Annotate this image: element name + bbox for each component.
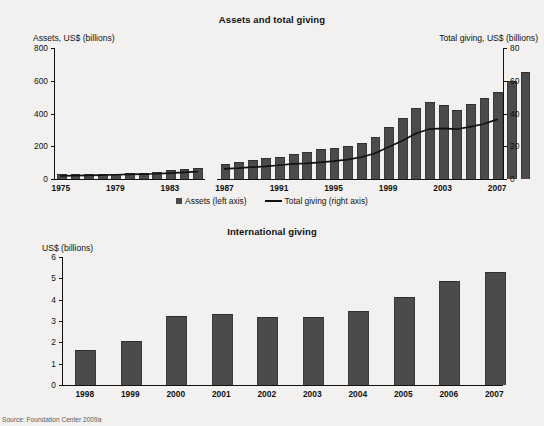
chart2-bar	[212, 314, 233, 385]
chart1-right-tick-label: 20	[510, 141, 536, 151]
chart1-right-tick-label: 40	[510, 109, 536, 119]
chart2-x-tick-label: 2005	[383, 389, 423, 399]
chart2-x-axis	[62, 385, 503, 386]
chart2-bar	[303, 317, 324, 385]
chart2-x-tick-label: 2003	[292, 389, 332, 399]
chart2-x-tick-label: 2000	[156, 389, 196, 399]
chart2-y-tick-label: 5	[36, 273, 56, 283]
chart1-x-tick-label: 1987	[204, 183, 244, 193]
chart1-x-tick-label: 1999	[368, 183, 408, 193]
chart1-x-tick-label: 1983	[150, 183, 190, 193]
chart2-bar	[75, 350, 96, 385]
chart1-right-tick-label: 60	[510, 76, 536, 86]
chart2-y-tick-label: 3	[36, 316, 56, 326]
chart2-tickmark	[59, 278, 62, 279]
chart2-x-tick-label: 2006	[429, 389, 469, 399]
chart2-plot-area: 0123456199819992000200120022003200420052…	[62, 257, 517, 385]
chart2-tickmark	[59, 321, 62, 322]
chart1-x-tick-label: 1995	[314, 183, 354, 193]
chart2-x-tick-label: 2007	[474, 389, 514, 399]
legend-entry-total-giving: Total giving (right axis)	[265, 196, 368, 206]
chart1-left-tickmark	[51, 81, 54, 82]
chart1-left-axis-label: Assets, US$ (billions)	[33, 33, 115, 43]
chart2-x-tick-label: 2004	[338, 389, 378, 399]
chart2-tickmark	[59, 342, 62, 343]
chart1-right-tickmark	[504, 48, 507, 49]
chart2-y-tick-label: 4	[36, 295, 56, 305]
chart1-x-tick-label: 2007	[477, 183, 517, 193]
chart2-tickmark	[59, 257, 62, 258]
chart1-plot-area: 0200400600800020406080197519791983198719…	[54, 48, 504, 179]
chart1-right-axis-label: Total giving, US$ (billions)	[439, 33, 538, 43]
chart1-left-tick-label: 600	[20, 76, 48, 86]
line-marker-icon	[265, 200, 282, 202]
legend-entry-assets: Assets (left axis)	[176, 196, 246, 206]
chart1-x-tick-label: 1991	[259, 183, 299, 193]
chart1-left-tickmark	[51, 114, 54, 115]
chart2-bar	[121, 341, 142, 385]
chart1-left-tick-label: 200	[20, 141, 48, 151]
chart1-bar	[521, 72, 531, 179]
chart2-tickmark	[59, 364, 62, 365]
chart2-x-tick-label: 2001	[201, 389, 241, 399]
chart1-legend: Assets (left axis) Total giving (right a…	[0, 196, 544, 206]
chart1-line-series	[54, 48, 504, 179]
chart2-bar	[394, 297, 415, 385]
chart2-tickmark	[59, 385, 62, 386]
chart1-left-tickmark	[51, 146, 54, 147]
chart1-right-tickmark	[504, 81, 507, 82]
square-marker-icon	[176, 198, 182, 204]
chart1-title: Assets and total giving	[0, 14, 544, 25]
chart1-x-axis	[54, 179, 504, 180]
chart1-right-tickmark	[504, 114, 507, 115]
source-note: Source: Foundation Center 2009a	[2, 416, 101, 423]
chart2-y-tick-label: 6	[36, 252, 56, 262]
chart1-x-tick-label: 2003	[423, 183, 463, 193]
chart1-left-tick-label: 800	[20, 43, 48, 53]
chart1-right-tickmark	[504, 146, 507, 147]
chart2-bar	[166, 316, 187, 385]
chart1-right-tick-label: 80	[510, 43, 536, 53]
chart2-y-tick-label: 2	[36, 337, 56, 347]
chart2-tickmark	[59, 300, 62, 301]
chart2-y-tick-label: 0	[36, 380, 56, 390]
chart1-left-axis	[54, 48, 55, 179]
chart2-bar	[348, 311, 369, 385]
chart2-x-tick-label: 2002	[247, 389, 287, 399]
chart1-x-tick-label: 1979	[95, 183, 135, 193]
chart2-y-tick-label: 1	[36, 359, 56, 369]
chart1-series-break	[205, 179, 218, 181]
chart2-bar	[439, 281, 460, 385]
chart2-bar	[485, 272, 506, 385]
chart1-right-tickmark	[504, 179, 507, 180]
chart1-bar	[507, 81, 517, 179]
chart1-left-tickmark	[51, 48, 54, 49]
chart2-y-axis	[62, 257, 63, 385]
chart2-title: International giving	[0, 226, 544, 237]
chart1-left-tickmark	[51, 179, 54, 180]
chart2-bar	[257, 317, 278, 385]
legend-label-total-giving: Total giving (right axis)	[285, 196, 368, 206]
chart2-x-tick-label: 1998	[65, 389, 105, 399]
chart2-x-tick-label: 1999	[110, 389, 150, 399]
chart1-x-tick-label: 1975	[41, 183, 81, 193]
legend-label-assets: Assets (left axis)	[185, 196, 246, 206]
figure-page: Assets and total giving Assets, US$ (bil…	[0, 0, 544, 426]
chart1-left-tick-label: 400	[20, 109, 48, 119]
